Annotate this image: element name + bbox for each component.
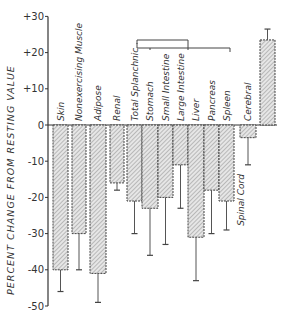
category-label: Nonexercising Muscle [74, 22, 84, 121]
bar [204, 125, 219, 190]
y-tick-label: +20 [23, 47, 44, 58]
category-label: Total Splanchnic [130, 48, 140, 121]
category-label: Renal [112, 95, 122, 121]
bar [158, 125, 173, 197]
bar [219, 125, 234, 201]
y-tick-label: -30 [28, 228, 44, 239]
category-label: Small Intestine [161, 53, 171, 121]
bar [260, 40, 275, 125]
bar [53, 125, 68, 270]
y-axis-label: PERCENT CHANGE FROM RESTING VALUE [5, 65, 16, 295]
splanchnic-bracket [137, 40, 230, 52]
y-tick-label: +10 [23, 83, 44, 94]
bar [72, 125, 86, 234]
y-tick-label: -10 [28, 156, 44, 167]
category-label: Large Intestine [176, 53, 186, 121]
category-label: Adipose [93, 85, 103, 122]
category-label: Liver [191, 98, 201, 121]
category-label: Spinal Cord [236, 174, 246, 226]
bar [240, 125, 256, 138]
category-label: Cerebral [243, 82, 253, 121]
bar [173, 125, 188, 165]
category-label: Pancreas [207, 80, 217, 121]
bar [142, 125, 158, 208]
category-label: Skin [56, 102, 66, 121]
y-tick-label: -50 [28, 301, 44, 312]
bar-chart: PERCENT CHANGE FROM RESTING VALUE +30+20… [0, 0, 284, 317]
category-label: Stomach [145, 81, 155, 121]
bar [188, 125, 204, 237]
bar [127, 125, 142, 201]
bar [90, 125, 106, 273]
category-label: Spleen [222, 90, 232, 121]
y-tick-label: +30 [23, 11, 44, 22]
y-tick-label: -40 [28, 264, 44, 275]
y-tick-label: 0 [38, 120, 44, 131]
y-tick-label: -20 [28, 192, 44, 203]
bar [110, 125, 124, 183]
